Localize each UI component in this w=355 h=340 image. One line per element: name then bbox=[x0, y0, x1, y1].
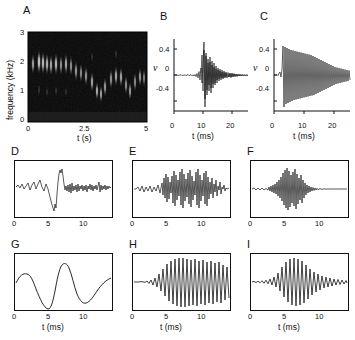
panel-b-tail-overlay bbox=[228, 74, 248, 78]
panel-g-xlabel: t (ms) bbox=[42, 323, 64, 332]
panel-g-waveform bbox=[16, 264, 111, 309]
panel-a-ylabel: frequency (kHz) bbox=[6, 60, 15, 120]
panel-f-xtick-5: 5 bbox=[282, 220, 286, 228]
panel-f-letter: F bbox=[247, 146, 254, 157]
panel-e-plot bbox=[132, 160, 231, 218]
panel-h-xtick-0: 0 bbox=[130, 313, 134, 321]
panel-h-xtick-10: 10 bbox=[197, 313, 205, 321]
panel-e: E 0 5 10 bbox=[118, 145, 236, 238]
panel-c: C v 0.4 0 -0.4 0 10 20 t (ms) bbox=[252, 0, 355, 145]
panel-a-xtick-0: 0 bbox=[26, 125, 30, 133]
panel-d-waveform bbox=[16, 169, 111, 211]
panel-d-xtick-5: 5 bbox=[46, 220, 50, 228]
panel-b-burst-overlay bbox=[201, 50, 227, 99]
panel-i-xtick-5: 5 bbox=[282, 313, 286, 321]
panel-f-xtick-0: 0 bbox=[248, 220, 252, 228]
panel-g: G 0 5 10 t (ms) bbox=[0, 238, 118, 340]
panel-g-plot bbox=[14, 253, 113, 311]
panel-a-ytick-3: 3 bbox=[20, 29, 24, 37]
panel-b-ytick-zero: 0 bbox=[165, 65, 169, 73]
panel-b-xtick-20: 20 bbox=[226, 122, 234, 130]
panel-c-ytick-pos: 0.4 bbox=[259, 46, 269, 54]
panel-a-ytick-0: 0 bbox=[20, 116, 24, 124]
panel-c-xtick-0: 0 bbox=[270, 122, 274, 130]
panel-a-xlabel: t (s) bbox=[77, 134, 92, 143]
panel-f: F 0 5 10 bbox=[236, 145, 355, 238]
panel-c-xtick-10: 10 bbox=[298, 122, 306, 130]
panel-h-xlabel: t (ms) bbox=[160, 323, 182, 332]
panel-g-frame bbox=[15, 254, 113, 311]
panel-i-waveform bbox=[252, 258, 347, 306]
panel-a-xtick-5: 5 bbox=[144, 125, 148, 133]
panel-f-plot bbox=[250, 160, 349, 218]
panel-f-xtick-10: 10 bbox=[315, 220, 323, 228]
panel-h-plot bbox=[132, 253, 231, 311]
panel-a-spectrogram bbox=[28, 32, 147, 122]
spectrogram-low-band bbox=[28, 112, 147, 122]
panel-i-xlabel: t (ms) bbox=[278, 323, 300, 332]
panel-b-xtick-0: 0 bbox=[170, 122, 174, 130]
panel-e-xtick-10: 10 bbox=[197, 220, 205, 228]
panel-d-letter: D bbox=[11, 146, 19, 157]
panel-d-plot bbox=[14, 160, 113, 218]
panel-i-xtick-0: 0 bbox=[248, 313, 252, 321]
panel-a-ytick-1: 1 bbox=[20, 87, 24, 95]
panel-d: D 0 5 10 bbox=[0, 145, 118, 238]
panel-a-xtick-mid: 2.5 bbox=[79, 125, 89, 133]
panel-b-ytick-pos: 0.4 bbox=[159, 46, 169, 54]
panel-h-letter: H bbox=[129, 239, 137, 250]
panel-g-xtick-10: 10 bbox=[79, 313, 87, 321]
panel-b-waveform bbox=[174, 42, 248, 107]
panel-b-ytick-neg: -0.4 bbox=[156, 85, 169, 93]
panel-b-plot bbox=[172, 33, 250, 119]
panel-b-xtick-10: 10 bbox=[197, 122, 205, 130]
spectrogram-canvas bbox=[28, 32, 147, 122]
panel-c-ylabel: v bbox=[253, 63, 257, 73]
panel-c-xlabel: t (ms) bbox=[293, 132, 315, 141]
panel-c-plot bbox=[272, 33, 352, 119]
panel-e-xtick-0: 0 bbox=[130, 220, 134, 228]
panel-h-xtick-5: 5 bbox=[164, 313, 168, 321]
panel-h-waveform bbox=[134, 258, 229, 307]
panel-g-letter: G bbox=[11, 239, 20, 250]
panel-d-frame bbox=[15, 161, 113, 218]
panel-i-plot bbox=[250, 253, 349, 311]
panel-h: H 0 5 10 t (ms) bbox=[118, 238, 236, 340]
panel-d-xtick-0: 0 bbox=[12, 220, 16, 228]
panel-g-xtick-0: 0 bbox=[12, 313, 16, 321]
panel-i-xtick-10: 10 bbox=[315, 313, 323, 321]
figure-panel-grid: A frequency (kHz) 3 2 1 0 bbox=[0, 0, 355, 340]
panel-i: I 0 5 10 t (ms) bbox=[236, 238, 355, 340]
panel-c-waveform bbox=[274, 46, 350, 107]
panel-f-waveform bbox=[252, 168, 347, 210]
panel-e-letter: E bbox=[129, 146, 136, 157]
panel-e-xtick-5: 5 bbox=[164, 220, 168, 228]
panel-c-ytick-neg: -0.4 bbox=[256, 85, 269, 93]
panel-b-letter: B bbox=[160, 11, 167, 22]
panel-d-xtick-10: 10 bbox=[79, 220, 87, 228]
panel-e-waveform bbox=[134, 169, 229, 208]
panel-c-letter: C bbox=[260, 11, 268, 22]
panel-i-letter: I bbox=[247, 239, 250, 250]
panel-c-ytick-zero: 0 bbox=[265, 65, 269, 73]
panel-b-ylabel: v bbox=[153, 63, 157, 73]
panel-a-letter: A bbox=[23, 5, 30, 16]
panel-a: A frequency (kHz) 3 2 1 0 bbox=[0, 0, 152, 145]
panel-b-xlabel: t (ms) bbox=[192, 132, 214, 141]
panel-a-ytick-2: 2 bbox=[20, 58, 24, 66]
panel-c-xtick-20: 20 bbox=[328, 122, 336, 130]
panel-b: B v 0.4 0 -0.4 0 10 20 t (ms) bbox=[152, 0, 252, 145]
panel-g-xtick-5: 5 bbox=[46, 313, 50, 321]
